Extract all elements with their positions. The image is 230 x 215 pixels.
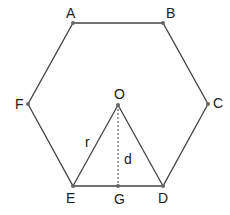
label-B: B [166,6,175,20]
hexagon-diagram [0,0,230,215]
label-d: d [124,152,132,166]
label-A: A [66,6,75,20]
label-r: r [85,135,90,149]
label-D: D [158,191,168,205]
label-C: C [213,96,223,110]
segment-OD [118,105,163,186]
label-F: F [15,97,24,111]
segment-OE [73,105,118,186]
label-E: E [66,191,75,205]
label-O: O [114,87,125,101]
label-G: G [114,192,125,206]
